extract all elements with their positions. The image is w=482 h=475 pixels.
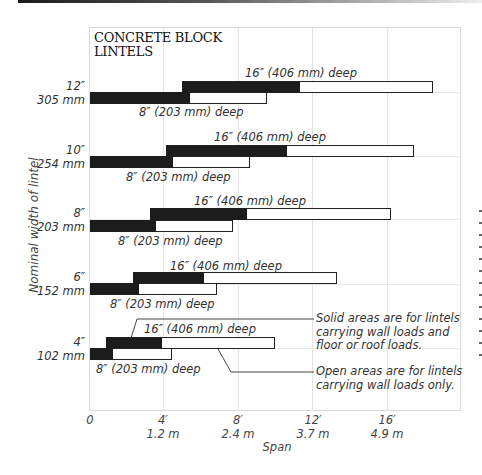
x-tick-0: 0 bbox=[86, 413, 93, 427]
annotation-leaders bbox=[0, 0, 482, 475]
x-axis-title: Span bbox=[263, 440, 292, 454]
x-tick-4ft: 4′1.2 m bbox=[146, 413, 179, 441]
note-solid-areas: Solid areas are for lintelscarrying wall… bbox=[316, 312, 481, 353]
x-tick-16ft: 16′4.9 m bbox=[370, 413, 403, 441]
note-open-areas: Open areas are for lintelscarrying wall … bbox=[316, 365, 481, 392]
x-tick-8ft: 8′2.4 m bbox=[221, 413, 254, 441]
x-tick-12ft: 12′3.7 m bbox=[296, 413, 329, 441]
